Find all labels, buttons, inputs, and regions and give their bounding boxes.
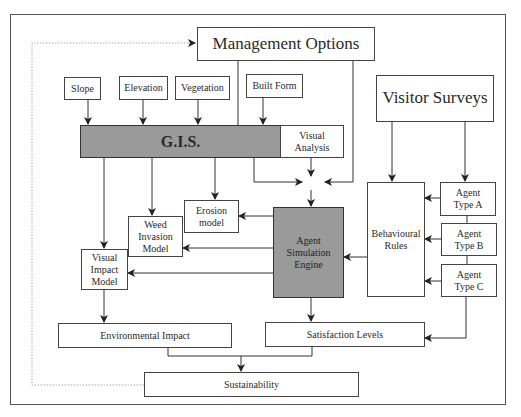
agent-type-b-box: Agent Type B	[441, 223, 497, 256]
weed-invasion-model-box: Weed Invasion Model	[128, 216, 183, 257]
built-form-label: Built Form	[252, 80, 296, 92]
erosion-model-box: Erosion model	[184, 200, 239, 233]
visitor-surveys-label: Visitor Surveys	[382, 88, 487, 108]
agent-simulation-engine-label: Agent Simulation Engine	[287, 235, 331, 271]
agent-type-c-box: Agent Type C	[441, 264, 497, 297]
sustainability-box: Sustainability	[144, 372, 359, 397]
environmental-impact-box: Environmental Impact	[58, 323, 232, 348]
elevation-label: Elevation	[124, 82, 162, 94]
sustainability-label: Sustainability	[224, 379, 279, 391]
visual-analysis-label: Visual Analysis	[295, 130, 330, 154]
erosion-model-label: Erosion model	[196, 205, 227, 229]
visual-impact-model-box: Visual Impact Model	[81, 249, 128, 290]
slope-box: Slope	[64, 77, 101, 100]
visual-analysis-box: Visual Analysis	[280, 125, 344, 158]
built-form-box: Built Form	[246, 74, 303, 98]
agent-simulation-engine-box: Agent Simulation Engine	[273, 207, 344, 298]
visual-impact-model-label: Visual Impact Model	[91, 252, 119, 288]
agent-type-a-label: Agent Type A	[453, 187, 482, 211]
satisfaction-levels-box: Satisfaction Levels	[265, 322, 425, 347]
environmental-impact-label: Environmental Impact	[100, 330, 190, 342]
elevation-box: Elevation	[119, 76, 168, 100]
slope-label: Slope	[71, 83, 94, 95]
gis-box: G.I.S.	[80, 125, 281, 158]
management-options-box: Management Options	[197, 27, 375, 61]
agent-type-b-label: Agent Type B	[454, 228, 483, 252]
satisfaction-levels-label: Satisfaction Levels	[307, 329, 383, 341]
agent-type-c-label: Agent Type C	[454, 269, 483, 293]
visitor-surveys-box: Visitor Surveys	[376, 75, 494, 122]
agent-type-a-box: Agent Type A	[440, 182, 496, 216]
behavioural-rules-label: Behavioural Rules	[372, 228, 421, 252]
management-options-label: Management Options	[213, 34, 360, 54]
behavioural-rules-box: Behavioural Rules	[367, 182, 425, 297]
vegetation-label: Vegetation	[181, 82, 224, 94]
vegetation-box: Vegetation	[175, 76, 230, 100]
weed-invasion-model-label: Weed Invasion Model	[138, 219, 172, 255]
gis-label: G.I.S.	[161, 132, 201, 151]
